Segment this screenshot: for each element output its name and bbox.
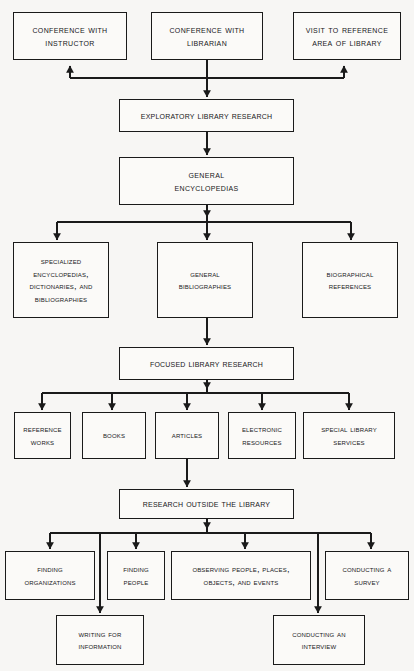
node-reference-works[interactable]: Reference Works	[14, 412, 71, 459]
node-label: General Encyclopedias	[171, 168, 241, 195]
node-finding-organizations[interactable]: Finding Organizations	[5, 551, 95, 600]
node-visit-to-reference-area[interactable]: Visit to Reference Area of Library	[293, 12, 401, 60]
node-label: Electronic Resources	[239, 423, 285, 448]
node-books[interactable]: Books	[82, 412, 146, 459]
node-finding-people[interactable]: Finding People	[107, 551, 165, 600]
node-label: Conference with Librarian	[166, 23, 247, 50]
node-label: Finding People	[120, 563, 152, 588]
node-label: Research Outside the Library	[140, 497, 273, 511]
node-label: Finding Organizations	[21, 563, 78, 588]
node-conference-with-librarian[interactable]: Conference with Librarian	[151, 12, 263, 60]
node-writing-for-information[interactable]: Writing for Information	[56, 615, 144, 665]
node-specialized-encyclopedias[interactable]: Specialized Encyclopedias, Dictionaries,…	[13, 242, 109, 318]
node-special-library-services[interactable]: Special Library Services	[303, 412, 395, 459]
node-label: Observing People, Places, Objects, and E…	[189, 563, 292, 588]
node-general-encyclopedias[interactable]: General Encyclopedias	[119, 157, 294, 205]
node-label: Reference Works	[20, 423, 64, 448]
node-focused-library-research[interactable]: Focused Library Research	[119, 347, 294, 380]
node-label: Biographical References	[324, 268, 377, 293]
node-label: Articles	[169, 429, 205, 442]
node-biographical-references[interactable]: Biographical References	[302, 242, 398, 318]
node-label: Exploratory Library Research	[138, 109, 275, 123]
node-label: Conducting an Interview	[289, 628, 349, 653]
node-label: Specialized Encyclopedias, Dictionaries,…	[27, 255, 96, 305]
node-conference-with-instructor[interactable]: Conference with Instructor	[13, 12, 127, 60]
node-general-bibliographies[interactable]: General Bibliographies	[157, 242, 253, 318]
node-label: Books	[100, 429, 128, 442]
node-observing-people-places-objects-events[interactable]: Observing People, Places, Objects, and E…	[171, 551, 311, 600]
node-label: Focused Library Research	[147, 357, 266, 371]
node-label: Writing for Information	[75, 628, 124, 653]
node-label: Special Library Services	[318, 423, 380, 448]
node-conducting-an-interview[interactable]: Conducting an Interview	[273, 615, 365, 665]
node-label: Conducting a Survey	[339, 563, 394, 588]
node-exploratory-library-research[interactable]: Exploratory Library Research	[119, 99, 294, 132]
flowchart-diagram: Conference with Instructor Conference wi…	[0, 0, 414, 671]
node-electronic-resources[interactable]: Electronic Resources	[228, 412, 296, 459]
node-label: Conference with Instructor	[29, 23, 110, 50]
node-research-outside-the-library[interactable]: Research Outside the Library	[119, 489, 294, 519]
node-articles[interactable]: Articles	[155, 412, 219, 459]
node-label: Visit to Reference Area of Library	[303, 23, 391, 50]
node-conducting-a-survey[interactable]: Conducting a Survey	[325, 551, 409, 600]
node-label: General Bibliographies	[176, 268, 234, 293]
